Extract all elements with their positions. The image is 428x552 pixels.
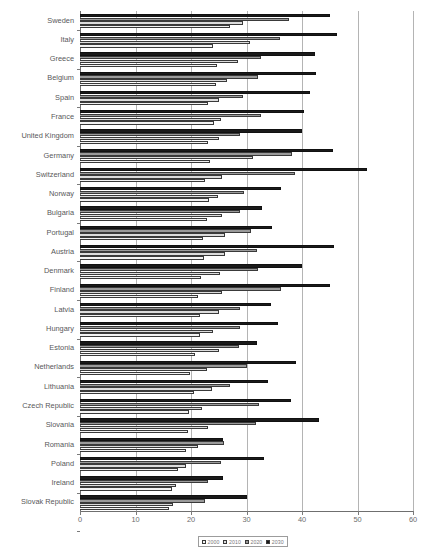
chart-page: SwedenItalyGreeceBelgiumSpainFranceUnite… [0,0,428,552]
bar-group [80,358,413,377]
legend-label: 2020 [250,539,262,545]
legend-swatch-icon [266,540,270,544]
category-label: Austria [51,248,74,256]
bar-2000 [80,25,230,28]
bar-2000 [80,449,186,452]
bar-group [80,454,413,473]
category-label: Latvia [54,306,74,314]
bar-group [80,30,413,49]
category-label: Poland [51,460,74,468]
value-axis-tick-label: 0 [78,515,82,524]
value-axis-tick-label: 40 [298,515,306,524]
bar-2000 [80,83,216,86]
bar-group [80,127,413,146]
bar-2000 [80,44,213,47]
bar-2000 [80,198,209,201]
chart-title-truncated [8,0,308,4]
bar-rows [80,11,413,512]
bar-2000 [80,121,214,124]
bar-2000 [80,256,204,259]
value-axis-tick-label: 50 [353,515,361,524]
bar-group [80,493,413,512]
category-label: United Kingdom [21,132,74,140]
value-axis-tick-label: 30 [242,515,250,524]
category-label: France [51,113,74,121]
legend-swatch-icon [245,540,249,544]
category-label: Lithuania [44,383,74,391]
category-label: Slovak Republic [21,498,74,506]
category-tick [77,531,80,532]
bar-group [80,377,413,396]
bar-group [80,69,413,88]
legend-label: 2000 [208,539,220,545]
legend-swatch-icon [223,540,227,544]
legend-label: 2030 [272,539,284,545]
legend-item-2010[interactable]: 2010 [223,539,240,545]
bar-2000 [80,141,208,144]
bar-group [80,50,413,69]
category-label: Denmark [44,267,74,275]
bar-2000 [80,218,207,221]
chart-legend: 2000201020202030 [198,536,288,547]
legend-swatch-icon [202,540,206,544]
bar-2000 [80,160,210,163]
bar-2000 [80,333,200,336]
legend-item-2030[interactable]: 2030 [266,539,283,545]
bar-2000 [80,179,205,182]
category-axis-labels: SwedenItalyGreeceBelgiumSpainFranceUnite… [0,11,78,512]
value-axis-tick-label: 60 [409,515,417,524]
bar-group [80,416,413,435]
bar-2000 [80,430,188,433]
bar-group [80,262,413,281]
gridline-60 [413,11,414,512]
category-label: Bulgaria [47,209,74,217]
bar-group [80,107,413,126]
bar-group [80,165,413,184]
bar-group [80,281,413,300]
category-label: Greece [50,55,74,63]
category-label: Spain [55,94,74,102]
category-label: Netherlands [34,363,74,371]
value-axis-labels: 0102030405060 [80,515,413,527]
bar-group [80,435,413,454]
category-label: Ireland [51,479,74,487]
category-label: Slovania [46,421,74,429]
category-label: Italy [60,36,74,44]
bar-2000 [80,295,198,298]
bar-group [80,11,413,30]
category-label: Belgium [47,74,74,82]
bar-2000 [80,353,195,356]
legend-item-2020[interactable]: 2020 [245,539,262,545]
category-label: Sweden [47,17,74,25]
bar-2000 [80,64,217,67]
bar-2000 [80,410,189,413]
bar-group [80,223,413,242]
bar-2000 [80,237,203,240]
value-axis-tick-label: 20 [187,515,195,524]
category-label: Romania [44,441,74,449]
category-label: Portugal [46,229,74,237]
bar-2000 [80,507,169,510]
bar-2000 [80,487,172,490]
bar-group [80,242,413,261]
bar-2000 [80,468,178,471]
bar-group [80,319,413,338]
category-label: Germany [44,152,74,160]
category-label: Norway [49,190,74,198]
value-axis-tick-label: 10 [131,515,139,524]
bar-group [80,204,413,223]
category-label: Hungary [46,325,74,333]
bar-group [80,146,413,165]
bar-2000 [80,276,201,279]
legend-label: 2010 [229,539,241,545]
bar-2000 [80,314,200,317]
bar-2000 [80,372,190,375]
category-label: Switzerland [36,171,74,179]
bar-group [80,300,413,319]
bar-group [80,184,413,203]
category-label: Czech Republic [22,402,74,410]
bar-2000 [80,102,208,105]
plot-area [80,11,413,512]
legend-item-2000[interactable]: 2000 [202,539,219,545]
bar-group [80,339,413,358]
